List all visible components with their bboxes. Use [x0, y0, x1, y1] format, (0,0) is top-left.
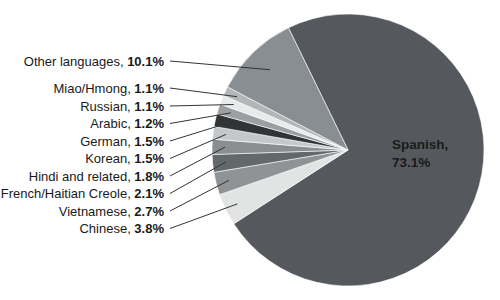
callout-label-miao-hmong: Miao/Hmong, 1.1%	[53, 81, 164, 96]
leader-line-chinese	[170, 204, 237, 229]
callout-label-russian: Russian, 1.1%	[80, 99, 164, 114]
slice-label-spanish-line2: 73.1%	[392, 155, 430, 170]
callout-label-arabic: Arabic, 1.2%	[90, 116, 164, 131]
callout-label-vietnamese: Vietnamese, 2.7%	[59, 204, 165, 219]
slice-label-spanish-line1: Spanish,	[392, 137, 448, 152]
callout-label-korean: Korean, 1.5%	[85, 151, 164, 166]
pie-chart: Other languages, 10.1%Miao/Hmong, 1.1%Ru…	[0, 0, 500, 300]
callout-label-other-languages: Other languages, 10.1%	[24, 54, 165, 69]
callout-label-french-haitian-creole: French/Haitian Creole, 2.1%	[1, 186, 165, 201]
callout-label-chinese: Chinese, 3.8%	[79, 221, 164, 236]
callout-label-hindi-and-related: Hindi and related, 1.8%	[29, 169, 165, 184]
pie-figure: Other languages, 10.1%Miao/Hmong, 1.1%Ru…	[0, 0, 500, 300]
callout-label-german: German, 1.5%	[80, 134, 164, 149]
callout-labels-group: Other languages, 10.1%Miao/Hmong, 1.1%Ru…	[1, 54, 165, 237]
